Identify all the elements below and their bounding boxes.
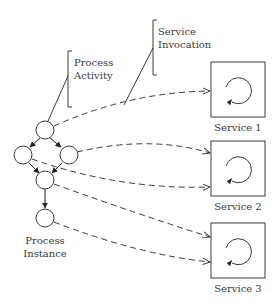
service-3-label: Service 3 <box>214 283 261 294</box>
invocation-arrow-s2a <box>77 144 210 153</box>
service-1-label: Service 1 <box>214 122 261 133</box>
service-2: Service 2 <box>211 141 265 212</box>
process-nodes <box>14 121 78 227</box>
service-invocation-label-line2: Invocation <box>158 39 212 50</box>
service-1: Service 1 <box>211 62 265 133</box>
process-service-diagram: Process Activity Service Invocation Proc… <box>0 0 280 308</box>
process-instance-label-line1: Process <box>25 235 64 246</box>
service-invocation-label-line1: Service <box>158 26 196 37</box>
service-invocation-annotation: Service Invocation <box>124 20 212 105</box>
process-instance-label-line2: Instance <box>23 248 67 259</box>
process-node-middle <box>36 171 54 189</box>
process-node-right <box>60 146 78 164</box>
process-node-bottom <box>36 209 54 227</box>
invocation-arrow-s2b <box>32 159 210 187</box>
process-node-top <box>36 121 54 139</box>
service-3: Service 3 <box>211 223 265 294</box>
invocation-arrow-s3a <box>54 184 210 237</box>
process-activity-label-line2: Activity <box>73 70 113 81</box>
invocation-arrow-s3b <box>54 222 210 262</box>
service-2-label: Service 2 <box>214 201 261 212</box>
process-activity-annotation: Process Activity <box>48 51 113 121</box>
invocation-arrow-s1 <box>54 91 210 126</box>
process-activity-label-line1: Process <box>74 57 113 68</box>
process-node-left <box>14 146 32 164</box>
